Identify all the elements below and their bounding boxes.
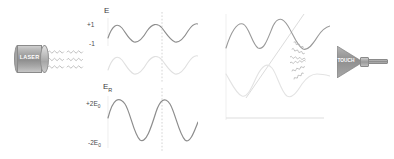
bottom-plot-axis-label: ER [103,82,112,93]
wave-E-secondary-faint [108,56,198,74]
top-plot-tick-positive: +1 [87,21,94,28]
bottom-plot-tick-positive-main: +2E [86,100,98,107]
incident-light-beam-icon [290,40,340,84]
left-plot-svg [86,0,198,159]
bottom-plot-tick-negative-main: -2E [88,139,98,146]
laser-label: LASER [18,54,41,60]
figure-canvas: LASER [0,0,394,159]
detector-label: TOUCH [335,58,357,63]
touch-detector-assembly: TOUCH [325,46,391,78]
bottom-plot-axis-label-sub: R [108,87,112,93]
top-plot-tick-negative: -1 [89,40,95,47]
bottom-plot-tick-negative-sub: 0 [98,143,101,148]
top-plot-axis-label: E [104,6,109,15]
bottom-plot-tick-positive: +2E0 [86,100,100,109]
bottom-plot-tick-positive-sub: 0 [98,104,101,109]
wave-E-primary [108,24,198,42]
laser-source-assembly: LASER [17,45,87,74]
wave-E-resultant [108,100,198,141]
detector-output-rod [368,59,388,64]
left-plot-group: E +1 -1 ER +2E0 -2E0 [86,0,198,159]
emitted-light-beam-icon [48,47,88,72]
bottom-plot-tick-negative: -2E0 [88,139,101,148]
